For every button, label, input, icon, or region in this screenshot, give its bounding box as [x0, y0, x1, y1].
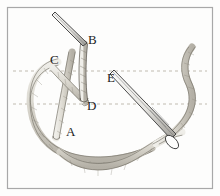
label-c: C [50, 52, 59, 67]
label-e: E [107, 70, 115, 85]
label-d: D [87, 98, 96, 113]
figure-frame: A B C D E [0, 0, 220, 196]
label-b: B [88, 32, 97, 47]
stitch-diagram: A B C D E [0, 0, 220, 196]
label-a: A [66, 124, 76, 139]
